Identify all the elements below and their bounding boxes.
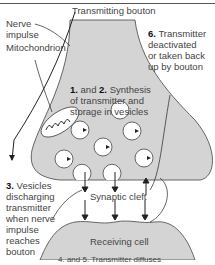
step-1-2-label: 1. and 2. Synthesis of transmitter and s… <box>70 84 151 117</box>
synaptic-cleft-label: Synaptic cleft <box>90 191 147 202</box>
transmitting-bouton-label: Transmitting bouton <box>72 5 156 16</box>
step-6-label: 6. Transmitter deactivated or taken back… <box>148 28 206 72</box>
cut-off-caption: 4. and 5. Transmitter diffuses <box>58 254 161 265</box>
receiving-cell-label: Receiving cell <box>90 236 149 247</box>
step-3-label: 3. Vesicles discharging transmitter when… <box>6 180 55 257</box>
nerve-impulse-label: Nerve impulse <box>6 18 39 40</box>
mitochondrion-label: Mitochondrion <box>6 42 66 53</box>
